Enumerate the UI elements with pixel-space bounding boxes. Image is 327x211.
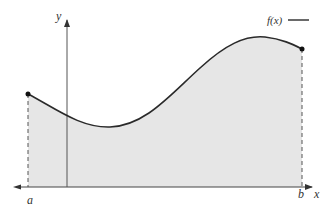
- endpoint-b: [300, 47, 305, 52]
- a-label: a: [27, 193, 33, 207]
- integral-diagram: f(x) y x a b: [0, 0, 327, 211]
- y-axis-label: y: [55, 9, 62, 23]
- endpoint-a: [26, 92, 31, 97]
- x-axis-label: x: [313, 187, 320, 201]
- b-label: b: [298, 187, 304, 201]
- x-axis-left-arrow-icon: [13, 185, 21, 190]
- legend-label: f(x): [267, 14, 283, 27]
- area-under-curve: [28, 37, 302, 187]
